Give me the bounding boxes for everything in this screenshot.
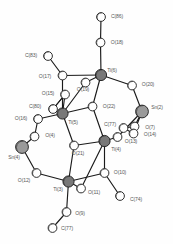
atom-O15 (61, 90, 70, 99)
atom-C86 (97, 13, 106, 22)
atom-Sn2 (136, 105, 149, 118)
atom-Ti5 (57, 108, 68, 119)
crystal-structure-figure: C(86)O(18)C(83)O(17)Ti(6)O(19)O(20)O(15)… (0, 0, 173, 244)
atom-Sn4 (16, 141, 29, 154)
atom-O20 (128, 81, 137, 90)
atom-O9 (62, 208, 71, 217)
atom-O12 (32, 169, 41, 178)
atom-Ti4 (99, 135, 110, 146)
atom-O14 (129, 129, 138, 138)
atom-O21 (70, 141, 79, 150)
atom-C74 (116, 192, 125, 201)
atom-C77 (119, 124, 128, 133)
structure-canvas (0, 0, 173, 244)
atom-O18 (96, 38, 105, 47)
atom-C77b (48, 224, 57, 233)
atom-O22 (88, 102, 97, 111)
atom-O16 (34, 115, 43, 124)
atom-Ti6 (95, 69, 106, 80)
atom-O13 (113, 133, 122, 142)
atom-O10 (100, 169, 109, 178)
atom-layer (16, 13, 149, 233)
atom-O19 (81, 78, 90, 87)
atom-O11 (77, 184, 86, 193)
atom-Ti3 (63, 176, 74, 187)
atom-C83 (44, 52, 53, 61)
atom-O4 (30, 132, 39, 141)
bond-Ti4-O11 (81, 141, 105, 189)
atom-C80 (49, 105, 58, 114)
atom-O17 (58, 71, 67, 80)
